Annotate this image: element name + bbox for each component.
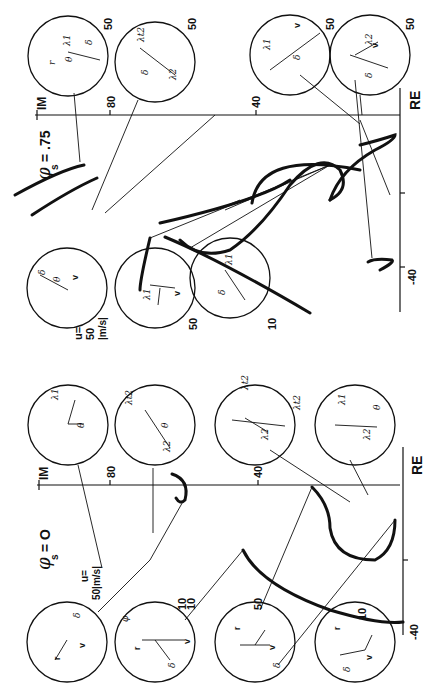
svg-text:s: s [49,164,60,170]
phasor-circle [28,385,108,465]
locus-branch [243,550,403,623]
svg-text:δ: δ [292,55,302,60]
svg-text:50: 50 [404,18,416,30]
phasor-circle [315,385,395,465]
phasor-circle [27,602,107,682]
svg-text:v: v [77,643,87,648]
svg-text:50: 50 [324,18,336,30]
im-tick-80: 80 [105,466,117,478]
phasor-circle [215,385,295,465]
svg-text:θ: θ [52,276,62,282]
re-tick-minus40: -40 [406,269,418,285]
im-tick-80: 80 [105,96,117,108]
svg-text:λ2: λ2 [162,440,172,453]
svg-text:λ1: λ1 [50,389,60,401]
svg-text:s: s [49,554,60,560]
svg-text:λ2: λ2 [364,33,374,46]
svg-text:λ2: λ2 [168,68,178,81]
im-tick-40: 40 [250,96,262,108]
locus-branch [172,474,186,502]
svg-text:λt2: λt2 [124,390,134,406]
svg-text:r: r [232,626,242,630]
svg-text:λt2: λt2 [292,395,302,411]
svg-text:δ: δ [364,73,374,78]
svg-text:δ: δ [72,613,82,618]
svg-text:δ: δ [342,667,352,672]
svg-text:50|m/s|: 50|m/s| [91,566,102,600]
speed-label: u= [72,327,84,340]
svg-text:λ1: λ1 [337,394,347,406]
locus-branch [312,487,395,560]
svg-text:δ: δ [84,40,94,45]
im-axis-label: IM [37,467,51,480]
svg-text:v: v [70,275,80,280]
svg-text:50: 50 [186,18,198,30]
im-axis-label: IM [35,97,49,110]
re-axis-label: RE [409,456,425,475]
svg-text:10: 10 [266,318,278,330]
svg-text:δ: δ [37,270,47,275]
locus-branch [32,178,97,215]
panel-title-phi-0: φ s = O [33,529,60,570]
svg-text:|m/s|: |m/s| [97,317,108,340]
svg-text:50: 50 [102,18,114,30]
svg-text:θ: θ [372,404,382,410]
svg-text:λ2: λ2 [362,428,372,441]
phasor-circle: 50 [115,248,199,330]
phasor-circle [27,248,107,328]
phasor-circle: 50 [215,598,295,682]
svg-text:θ: θ [76,422,86,428]
svg-text:λ1: λ1 [142,289,152,301]
svg-text:λ1: λ1 [62,35,72,47]
re-axis-label: RE [407,91,423,110]
svg-text:δ: δ [272,663,282,668]
svg-text:r: r [52,656,62,660]
re-tick-minus40: -40 [408,624,420,640]
panel-phi-075: IM 80 40 RE -40 φ s = .75 50 [15,15,423,340]
panel-phi-0: IM 80 40 RE -40 φ s = O 10 50 10 [27,375,425,682]
svg-text:λt2: λt2 [136,27,146,43]
svg-text:λ2: λ2 [260,428,270,441]
svg-text:v: v [182,639,192,644]
panel-title-phi-075: φ s = .75 [33,130,60,180]
svg-text:10: 10 [176,598,188,610]
svg-text:v: v [267,645,277,650]
svg-text:δ: δ [167,663,177,668]
root-locus-figure: IM 80 40 RE -40 φ s = .75 50 [0,0,432,684]
svg-text:δ: δ [217,290,227,295]
speed-label: u= [79,570,90,582]
locus-branch [160,180,290,223]
locus-branch [165,237,310,313]
svg-text:= .75: = .75 [37,130,53,162]
svg-text:v: v [364,655,374,660]
svg-text:λ1: λ1 [262,39,272,51]
svg-text:δ: δ [140,70,150,75]
svg-text:10: 10 [356,608,368,620]
locus-branch [368,259,393,270]
svg-text:λ1: λ1 [224,254,234,266]
svg-text:θ: θ [160,422,170,428]
svg-text:φ: φ [120,615,130,622]
svg-text:r: r [47,60,57,65]
svg-text:50: 50 [252,598,264,610]
svg-text:v: v [172,291,182,296]
phasor-circle: 10 [315,602,395,682]
im-tick-40: 40 [252,466,264,478]
svg-text:50: 50 [187,318,199,330]
phasor-circle: 50 [28,16,114,96]
phasor-circle: 50 [115,18,198,102]
phasor-circle: 50 [330,15,416,95]
locus-branch [140,238,150,290]
svg-text:θ: θ [64,56,74,62]
svg-text:v: v [292,23,302,28]
svg-text:r: r [132,646,142,650]
svg-text:r: r [332,626,342,630]
svg-text:= O: = O [37,529,53,552]
svg-text:50: 50 [84,328,96,340]
svg-text:λt2: λt2 [240,375,250,391]
